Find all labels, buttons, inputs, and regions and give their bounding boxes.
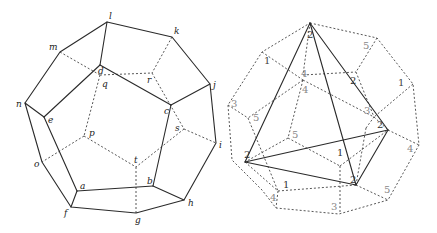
- vertex-label-q: q: [102, 79, 108, 89]
- face-number: 4: [302, 84, 308, 95]
- vertex-label-n: n: [16, 99, 22, 109]
- face-number: 2: [350, 75, 356, 86]
- face-number: 2: [377, 119, 383, 130]
- vertex-label-l: l: [109, 11, 112, 21]
- vertex-label-b: b: [147, 176, 153, 186]
- face-number: 3: [364, 105, 370, 116]
- face-numbers: 2 1 5 4 4 2 1 3 3 5 5 2 1 4 2 2 1 4 5 3: [231, 29, 413, 212]
- vertex-label-s: s: [175, 123, 180, 133]
- dodecahedron-diagrams: l k m d q r j c n e s p i t o a b f h g: [0, 0, 437, 233]
- left-dodecahedron: l k m d q r j c n e s p i t o a b f h g: [16, 11, 222, 225]
- hidden-edges: [42, 37, 216, 213]
- right-dodecahedron: 2 1 5 4 4 2 1 3 3 5 5 2 1 4 2 2 1 4 5 3: [228, 23, 419, 214]
- face-number: 4: [270, 192, 276, 203]
- vertex-label-p: p: [89, 128, 95, 138]
- face-number: 5: [292, 129, 298, 140]
- face-number: 4: [407, 143, 413, 154]
- vertex-label-m: m: [49, 42, 58, 52]
- vertex-label-e: e: [48, 115, 53, 125]
- vertex-label-i: i: [219, 140, 222, 150]
- vertex-labels: l k m d q r j c n e s p i t o a b f h g: [16, 11, 222, 225]
- vertex-label-h: h: [188, 198, 194, 208]
- vertex-label-r: r: [147, 75, 152, 85]
- face-number: 3: [231, 98, 237, 109]
- face-number: 5: [384, 184, 390, 195]
- face-number: 1: [264, 55, 270, 66]
- face-number: 2: [244, 149, 250, 160]
- vertex-label-g: g: [135, 215, 141, 225]
- face-number: 5: [363, 40, 369, 51]
- face-number: 2: [350, 174, 356, 185]
- vertex-label-c: c: [164, 106, 169, 116]
- face-number: 1: [283, 179, 289, 190]
- face-number: 1: [398, 77, 404, 88]
- vertex-label-k: k: [174, 26, 179, 36]
- vertex-label-d: d: [98, 66, 104, 76]
- vertex-label-o: o: [34, 159, 40, 169]
- face-number: 2: [307, 29, 313, 40]
- face-number: 5: [253, 112, 259, 123]
- face-number: 1: [337, 147, 343, 158]
- vertex-label-a: a: [80, 181, 85, 191]
- vertex-label-t: t: [134, 155, 138, 165]
- vertex-label-f: f: [63, 208, 69, 218]
- vertex-label-j: j: [211, 80, 216, 90]
- face-number: 3: [331, 201, 337, 212]
- face-number: 4: [301, 68, 307, 79]
